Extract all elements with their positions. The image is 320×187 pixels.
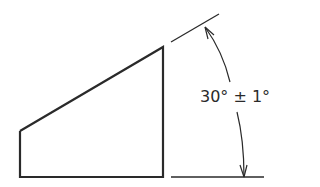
part-outline <box>20 47 163 177</box>
dimension-arc-upper <box>205 27 230 82</box>
angle-dimension-label: 30° ± 1° <box>198 86 282 108</box>
